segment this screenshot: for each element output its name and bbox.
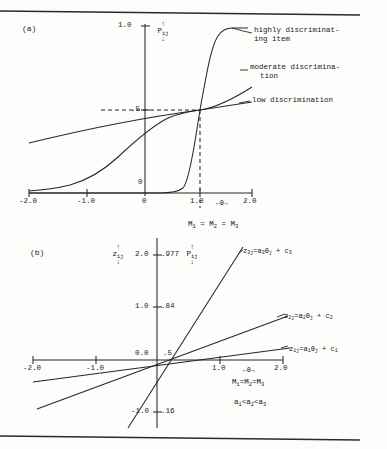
curve-label-low-discrimination: low discrimination: [252, 96, 333, 105]
panel-a-xtick-label-1: 1.0: [190, 197, 204, 206]
line-label-z2j: z2j=a2θj + c2: [284, 312, 333, 320]
bottom-divider-rule: [0, 436, 360, 440]
panel-a-xtick-label-m1: -1.0: [77, 197, 95, 206]
panel-b-xtick-label-m1: -1.0: [86, 364, 104, 373]
panel-b-left-axis-label: ↑ zij ↓: [106, 244, 130, 267]
panel-a-y-axis-label-text: Pij: [158, 27, 169, 35]
figure-page: (a) 1.0 .5 0 ↑ Pij ↓ -2.0 -1.0 0 1.0 2.0…: [0, 0, 387, 449]
panel-b-ztick-label-1: 1.0: [135, 302, 149, 311]
panel-b-right-axis-label: ↑ Pij ↓: [180, 244, 204, 267]
panel-a-x-axis-label: ←θ→: [216, 199, 227, 207]
panel-b-annotation-difficulty: M1=M2=M3: [232, 378, 264, 387]
line-label-z1j: z1j=a1θj + c1: [289, 345, 338, 353]
panel-b-tag: (b): [30, 248, 44, 257]
line-z3j: [128, 247, 243, 428]
panel-b-annotation-discrimination: a1<a2<a3: [234, 398, 266, 407]
panel-a-xtick-label-m2: -2.0: [19, 197, 37, 206]
panel-b-right-axis-label-text: Pij: [187, 250, 198, 258]
panel-b-ztick-label-2: 2.0: [135, 250, 149, 259]
panel-b-ztick-label-0: 0.0: [135, 349, 149, 358]
panel-a-ytick-label-05: .5: [131, 105, 140, 114]
panel-a-xtick-label-0: 0: [142, 197, 147, 206]
panel-b-ptick-label-84: .84: [161, 302, 175, 311]
leader-z1j: [281, 346, 288, 348]
panel-b-left-axis-label-text: zij: [113, 250, 124, 258]
panel-a-ytick-label-1: 1.0: [118, 21, 132, 30]
top-divider-rule: [0, 11, 360, 15]
panel-a-difficulty-annotation: M1 = M2 = M3: [170, 211, 238, 237]
curve-moderate-discrimination: [29, 87, 252, 191]
anno-m3: M3: [231, 220, 239, 228]
anno-m1: M1: [188, 220, 196, 228]
panel-b-xtick-label-m2: -2.0: [23, 364, 41, 373]
line-label-z3j: z3j=a3θj + c3: [243, 247, 292, 255]
panel-b-ptick-label-977: .977: [161, 250, 179, 259]
down-arrow-icon: ↓: [106, 259, 130, 266]
panel-b-ptick-label-16: .16: [161, 407, 175, 416]
panel-b-xtick-label-2: 2.0: [274, 364, 288, 373]
curve-label-highly-discriminating: highly discriminat-ing item: [254, 26, 340, 43]
panel-a-tag: (a): [22, 24, 36, 33]
panel-b-ptick-label-5: .5: [163, 349, 172, 358]
down-arrow-icon: ↓: [180, 259, 204, 266]
panel-b-xtick-label-1: 1.0: [212, 364, 226, 373]
panel-a-y-axis-label: ↑ Pij ↓: [152, 21, 174, 44]
leader-highly: [232, 28, 252, 33]
panel-a-ytick-label-0: 0: [138, 178, 143, 187]
panel-a-xtick-label-2: 2.0: [243, 197, 257, 206]
down-arrow-icon: ↓: [152, 36, 174, 43]
anno-m2: M2: [209, 220, 217, 228]
panel-b-x-axis-label: ←θ→: [243, 366, 254, 374]
panel-b-ztick-label-m1: -1.0: [131, 407, 149, 416]
line-z2j: [37, 316, 288, 409]
curve-label-moderate-discrimination: moderate discrimina-tion: [250, 63, 340, 80]
line-z1j: [33, 348, 290, 382]
